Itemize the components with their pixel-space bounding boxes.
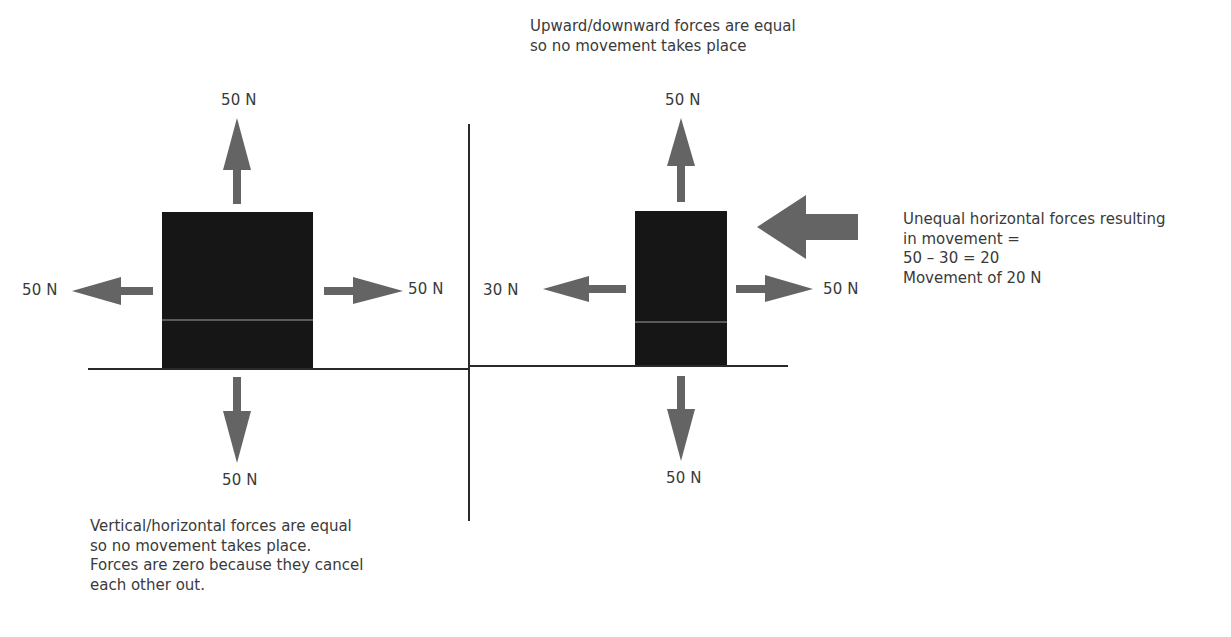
right-up-force-label: 50 N — [665, 91, 700, 110]
left-right-force-label: 50 N — [408, 280, 443, 299]
left-left-force-label: 50 N — [22, 281, 57, 300]
caption-line: each other out. — [90, 576, 363, 596]
arrow-up-icon — [223, 118, 251, 204]
note-line: 50 – 30 = 20 — [903, 249, 1165, 269]
note-line: Unequal horizontal forces resulting — [903, 210, 1165, 230]
block-stripe — [635, 321, 727, 323]
right-block — [635, 211, 727, 366]
right-left-force-label: 30 N — [483, 281, 518, 300]
caption-line: Vertical/horizontal forces are equal — [90, 517, 363, 537]
left-block — [162, 212, 313, 368]
arrow-left-icon — [543, 276, 626, 302]
divider-line — [468, 124, 470, 521]
left-caption: Vertical/horizontal forces are equal so … — [90, 517, 363, 595]
title-line: Upward/downward forces are equal — [530, 17, 796, 37]
arrow-right-icon — [736, 275, 813, 302]
block-stripe — [162, 319, 313, 321]
right-right-force-label: 50 N — [823, 280, 858, 299]
resultant-note: Unequal horizontal forces resulting in m… — [903, 210, 1165, 288]
note-line: Movement of 20 N — [903, 269, 1165, 289]
right-title: Upward/downward forces are equal so no m… — [530, 17, 796, 56]
left-up-force-label: 50 N — [221, 91, 256, 110]
right-down-force-label: 50 N — [666, 469, 701, 488]
arrow-right-icon — [324, 277, 403, 304]
arrow-left-icon — [72, 277, 153, 305]
arrow-down-icon — [223, 377, 251, 463]
caption-line: so no movement takes place. — [90, 537, 363, 557]
left-down-force-label: 50 N — [222, 471, 257, 490]
right-ground-line — [468, 365, 788, 367]
forces-diagram: 50 N 50 N 50 N 50 N Vertical/horizontal … — [0, 0, 1231, 637]
note-line: in movement = — [903, 230, 1165, 250]
caption-line: Forces are zero because they cancel — [90, 556, 363, 576]
title-line: so no movement takes place — [530, 37, 796, 57]
arrow-up-icon — [667, 118, 695, 202]
arrow-down-icon — [667, 376, 695, 461]
resultant-arrow-left-icon — [757, 195, 858, 259]
left-ground-line — [88, 368, 470, 370]
